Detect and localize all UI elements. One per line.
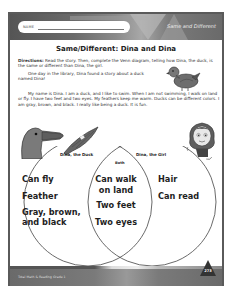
venn-center-item: Two feet [87, 201, 145, 210]
directions-label: Directions: [18, 58, 44, 63]
venn-center-label: Both [115, 161, 125, 165]
page-title: Same/Different: Dina and Dina [10, 45, 222, 53]
section-tag: Same and Different [167, 23, 216, 29]
worksheet-header: NAME Same and Different [10, 14, 222, 40]
page-number: 273 [202, 269, 214, 273]
venn-right-item: Hair [158, 175, 177, 184]
venn-left-item: Can fly [22, 175, 54, 184]
worksheet-footer: Total Math & Reading Grade 1 273 [10, 266, 222, 286]
footer-credit: Total Math & Reading Grade 1 [18, 275, 66, 279]
venn-left-label: Dina, the Duck [60, 152, 93, 157]
page-number-badge-icon [200, 260, 216, 276]
venn-left-item: Feather [22, 192, 58, 201]
intro-text: One day in the library, Dina found a sto… [18, 71, 148, 82]
worksheet-page: NAME Same and Different Same/Different: … [8, 12, 224, 286]
story-text: My name is Dina. I am a duck, and I like… [18, 91, 220, 107]
venn-right-label: Dina, the Girl [136, 152, 166, 157]
name-write-line [38, 29, 124, 30]
duck-icon [166, 63, 202, 93]
venn-center-item: on land [87, 186, 145, 195]
venn-left-item: Gray, brown, [22, 208, 81, 217]
footer-decoration [10, 266, 222, 269]
venn-right-item: Can read [158, 192, 199, 201]
venn-center-item: Two eyes [87, 218, 145, 227]
venn-center-item: Can walk [87, 175, 145, 184]
venn-left-item: and black [22, 218, 67, 227]
name-label: NAME [23, 25, 34, 29]
name-field[interactable]: NAME [18, 21, 130, 33]
